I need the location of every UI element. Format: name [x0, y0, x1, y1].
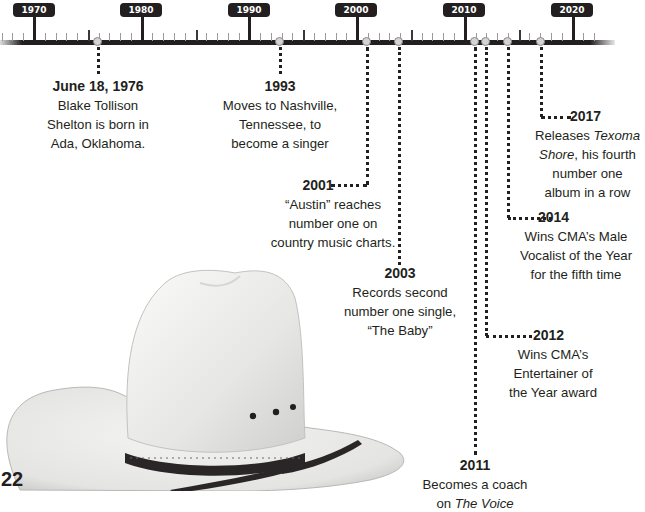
year-tick: [228, 33, 229, 41]
year-tick: [303, 30, 305, 41]
event-line: number one: [552, 166, 622, 181]
decade-label-2000: 2000: [335, 3, 377, 17]
year-tick: [336, 33, 337, 41]
event-line: Becomes a coach: [423, 477, 528, 492]
year-tick: [356, 14, 359, 41]
marker-2001: [362, 37, 371, 46]
year-tick: [217, 33, 218, 41]
decade-label-1970: 1970: [13, 3, 55, 17]
year-tick: [422, 33, 423, 41]
event-line: Vocalist of the Year: [520, 248, 632, 263]
year-tick: [411, 30, 413, 41]
decade-label-2010: 2010: [443, 3, 485, 17]
year-tick: [88, 30, 90, 41]
event-date: 2012: [533, 326, 613, 345]
decade-label-2020: 2020: [551, 3, 593, 17]
connector-2011: [474, 47, 477, 455]
event-line: Entertainer of: [513, 366, 592, 381]
year-tick: [2, 33, 3, 41]
event-line: Tennessee, to: [239, 117, 321, 132]
event-line: become a singer: [231, 136, 329, 151]
year-tick: [551, 33, 552, 41]
year-tick: [389, 33, 390, 41]
year-tick: [174, 33, 175, 41]
event-2017: 2017 Releases Texoma Shore, his fourth n…: [530, 107, 645, 202]
year-tick: [109, 33, 110, 41]
event-date: 2014: [538, 208, 644, 227]
year-tick: [56, 33, 57, 41]
event-date: 2001: [228, 176, 408, 195]
event-line: Wins CMA’s Male: [525, 229, 628, 244]
event-line: Moves to Nashville,: [223, 98, 337, 113]
year-tick: [66, 33, 67, 41]
event-date: 1993: [210, 77, 350, 96]
event-line: country music charts.: [271, 235, 396, 250]
year-tick: [432, 33, 433, 41]
year-tick: [260, 33, 261, 41]
year-tick: [325, 33, 326, 41]
marker-1976: [93, 37, 102, 46]
year-tick: [152, 33, 153, 41]
connector-1993: [279, 47, 282, 74]
year-tick: [346, 33, 347, 41]
event-date: 2017: [570, 107, 645, 126]
marker-2011: [470, 37, 479, 46]
year-tick: [163, 33, 164, 41]
year-tick: [239, 33, 240, 41]
event-2001: 2001 “Austin” reaches number one on coun…: [258, 176, 408, 252]
album-title: Shore: [539, 147, 574, 162]
event-line: Wins CMA’s: [518, 347, 589, 362]
event-line: for the fifth time: [531, 267, 622, 282]
year-tick: [497, 33, 498, 41]
marker-2012: [481, 37, 490, 46]
connector-1976: [97, 47, 100, 74]
year-tick: [594, 33, 595, 41]
year-tick: [443, 33, 444, 41]
connector-2012-vertical: [485, 47, 488, 336]
event-2012: 2012 Wins CMA’s Entertainer of the Year …: [493, 326, 613, 402]
event-line: Shelton is born in: [47, 117, 149, 132]
event-line: “Austin” reaches: [285, 197, 381, 212]
year-tick: [77, 33, 78, 41]
year-tick: [120, 33, 121, 41]
event-2014: 2014 Wins CMA’s Male Vocalist of the Yea…: [508, 208, 644, 284]
event-line: Blake Tollison: [58, 98, 138, 113]
cowboy-hat-image: [0, 258, 420, 491]
event-date: 2011: [415, 456, 535, 475]
event-1976: June 18, 1976 Blake Tollison Shelton is …: [28, 77, 168, 153]
year-tick: [12, 33, 13, 41]
album-title: Texoma: [594, 128, 640, 143]
year-tick: [33, 14, 36, 41]
marker-2003: [394, 37, 403, 46]
marker-1993: [275, 37, 284, 46]
decade-label-1990: 1990: [228, 3, 270, 17]
event-2011: 2011 Becomes a coach on The Voice: [415, 456, 535, 512]
year-tick: [519, 30, 521, 41]
year-tick: [185, 33, 186, 41]
event-line: on: [436, 496, 454, 511]
event-line: album in a row: [545, 185, 631, 200]
year-tick: [45, 33, 46, 41]
year-tick: [562, 33, 563, 41]
decade-label-1980: 1980: [120, 3, 162, 17]
event-1993: 1993 Moves to Nashville, Tennessee, to b…: [210, 77, 350, 153]
connector-2014-vertical: [507, 47, 510, 218]
connector-2001-vertical: [366, 47, 369, 185]
page-number: 22: [1, 468, 23, 491]
year-tick: [529, 33, 530, 41]
event-line: Ada, Oklahoma.: [51, 136, 146, 151]
event-date: June 18, 1976: [28, 77, 168, 96]
year-tick: [454, 33, 455, 41]
event-line: Releases: [535, 128, 594, 143]
year-tick: [23, 33, 24, 41]
event-line: the Year award: [509, 385, 597, 400]
year-tick: [572, 14, 575, 41]
year-tick: [464, 14, 467, 41]
year-tick: [248, 14, 251, 41]
year-tick: [292, 33, 293, 41]
year-tick: [379, 33, 380, 41]
year-tick: [583, 33, 584, 41]
year-tick: [141, 14, 144, 41]
event-line: number one on: [289, 216, 378, 231]
event-line: , his fourth: [574, 147, 636, 162]
